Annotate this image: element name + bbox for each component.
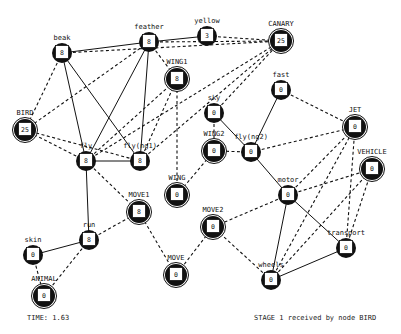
node-WING2[interactable]: 0WING2 (202, 130, 227, 164)
node-motor[interactable]: 0motor (277, 176, 298, 205)
node-label: yellow (194, 17, 220, 25)
node-label: sky (208, 94, 221, 102)
node-label: BIRD (17, 109, 34, 117)
node-value: 0 (269, 276, 273, 284)
node-value: 0 (212, 109, 216, 117)
node-CANARY[interactable]: 25CANARY (268, 20, 294, 54)
node-label: VEHICLE (357, 148, 387, 156)
node-value: 8 (60, 49, 64, 57)
node-label: fast (273, 71, 290, 79)
node-fly1[interactable]: 8fly(ng1) (123, 142, 157, 171)
node-fly2[interactable]: 0fly(ng2) (234, 133, 268, 162)
edge-sky-CANARY (214, 41, 281, 113)
node-value: 0 (279, 86, 283, 94)
time-label: TIME: 1.63 (27, 314, 69, 322)
edges-layer (25, 36, 372, 296)
edge-fast-fly2 (251, 90, 281, 152)
stage-message: STAGE 1 received by node BIRD (254, 314, 376, 322)
node-value: 0 (370, 165, 374, 173)
node-label: MOVE1 (128, 191, 149, 199)
node-value: 0 (344, 244, 348, 252)
node-label: WING (169, 174, 186, 182)
node-label: CANARY (268, 20, 294, 28)
node-value: 0 (175, 191, 179, 199)
node-WING[interactable]: 0WING (165, 174, 190, 208)
edge-beak-feather (62, 42, 149, 53)
node-MOVE2[interactable]: 0MOVE2 (201, 206, 226, 240)
node-value: 8 (84, 157, 88, 165)
node-wheels[interactable]: 0wheels (258, 261, 283, 290)
node-value: 0 (174, 271, 178, 279)
node-label: JET (349, 106, 362, 114)
node-value: 8 (137, 208, 141, 216)
node-label: WING1 (166, 58, 187, 66)
node-value: 25 (277, 37, 285, 45)
node-fly[interactable]: 8fly (76, 142, 96, 171)
node-value: 25 (21, 126, 29, 134)
node-value: 3 (205, 32, 209, 40)
node-label: WING2 (203, 130, 224, 138)
node-label: feather (134, 23, 164, 31)
semantic-network-diagram: 8beak8feather3yellow25CANARY8WING125BIRD… (0, 0, 401, 334)
node-value: 8 (147, 38, 151, 46)
node-fast[interactable]: 0fast (271, 71, 291, 100)
node-label: wheels (258, 261, 283, 269)
edge-motor-transport (288, 195, 346, 248)
node-value: 0 (211, 223, 215, 231)
node-label: run (83, 221, 96, 229)
node-label: MOVE2 (202, 206, 223, 214)
node-VEHICLE[interactable]: 0VEHICLE (357, 148, 387, 182)
node-value: 8 (138, 157, 142, 165)
node-value: 0 (249, 148, 253, 156)
node-label: fly (80, 142, 93, 150)
node-ANIMAL[interactable]: 0ANIMAL (31, 275, 56, 309)
node-feather[interactable]: 8feather (134, 23, 164, 52)
node-MOVE1[interactable]: 8MOVE1 (127, 191, 152, 225)
node-label: motor (277, 176, 298, 184)
node-value: 0 (31, 251, 35, 259)
node-label: fly(ng2) (234, 133, 268, 141)
node-MOVE[interactable]: 0MOVE (164, 254, 189, 288)
node-value: 0 (353, 123, 357, 131)
edge-beak-CANARY (62, 41, 281, 53)
node-label: beak (54, 34, 72, 42)
node-JET[interactable]: 0JET (343, 106, 368, 140)
node-label: skin (25, 236, 42, 244)
node-run[interactable]: 8run (79, 221, 99, 250)
node-label: MOVE (168, 254, 185, 262)
node-label: ANIMAL (31, 275, 56, 283)
node-label: transport (327, 229, 365, 237)
node-value: 0 (286, 191, 290, 199)
nodes-layer: 8beak8feather3yellow25CANARY8WING125BIRD… (13, 17, 387, 309)
node-sky[interactable]: 0sky (204, 94, 224, 123)
edge-feather-BIRD (25, 42, 149, 130)
node-value: 8 (175, 75, 179, 83)
node-beak[interactable]: 8beak (52, 34, 72, 63)
node-value: 0 (212, 147, 216, 155)
node-label: fly(ng1) (123, 142, 157, 150)
node-skin[interactable]: 0skin (23, 236, 43, 265)
node-BIRD[interactable]: 25BIRD (13, 109, 38, 143)
node-value: 8 (87, 236, 91, 244)
node-WING1[interactable]: 8WING1 (165, 58, 190, 92)
node-value: 0 (42, 292, 46, 300)
